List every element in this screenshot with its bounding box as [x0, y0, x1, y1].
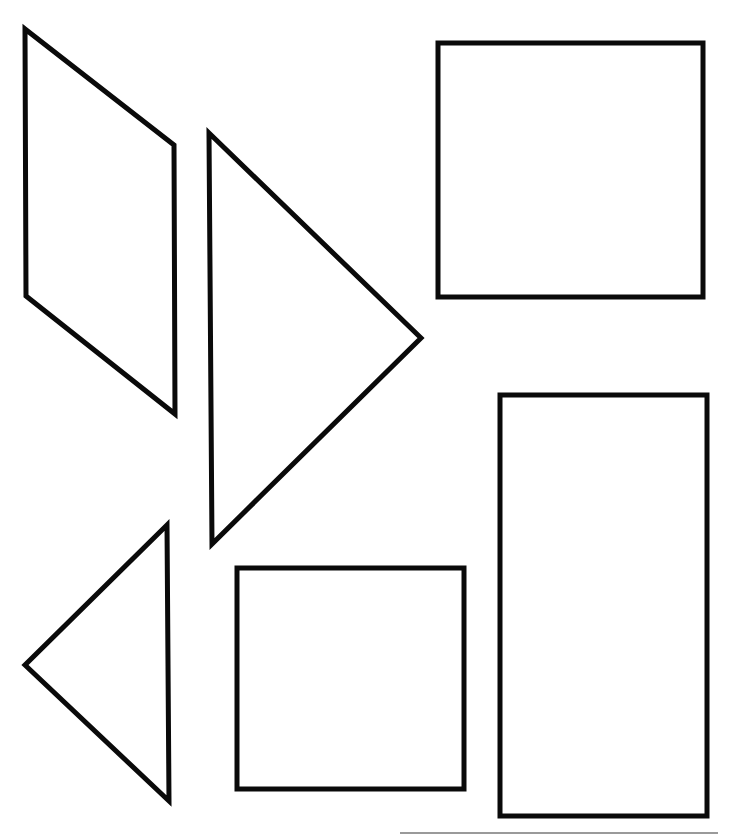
top-square-shape [438, 43, 703, 297]
large-triangle-shape [209, 133, 421, 544]
small-triangle-shape [25, 525, 169, 801]
tall-rectangle-shape [500, 395, 707, 816]
parallelogram-shape [25, 29, 175, 414]
bottom-square-shape [237, 568, 464, 789]
shapes-canvas [0, 0, 730, 835]
